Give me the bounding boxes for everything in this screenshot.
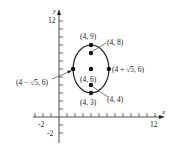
- axes: [33, 9, 165, 143]
- y-tick-label-neg2: -2: [47, 129, 53, 138]
- point-vertex-top: [89, 43, 93, 47]
- label-vertex-bottom: (4, 3): [80, 98, 97, 107]
- y-axis-label: y: [52, 7, 57, 15]
- x-ticks: [35, 113, 155, 117]
- leader-arrow-icon: [67, 71, 72, 74]
- label-vertex-top: (4, 9): [80, 32, 97, 41]
- x-tick-label-neg2: -2: [38, 120, 44, 129]
- leader-lines: [52, 43, 108, 97]
- y-ticks: [59, 21, 63, 133]
- ellipse-diagram: x y -2 12 12 -2 (4, 9) (4, 8) (4, 6) (4,…: [0, 0, 178, 154]
- label-covertex-left: (4 − √5, 6): [16, 78, 49, 87]
- point-focus-top: [89, 51, 93, 55]
- leader-focus-top: [93, 43, 106, 51]
- y-tick-label-12: 12: [48, 16, 56, 25]
- points: [71, 43, 111, 95]
- y-axis-arrow-icon: [57, 9, 61, 15]
- point-center: [89, 67, 93, 71]
- point-vertex-bottom: [89, 91, 93, 95]
- label-focus-top: (4, 8): [107, 38, 124, 47]
- x-tick-label-12: 12: [150, 120, 158, 129]
- point-covertex-right: [107, 67, 111, 71]
- label-covertex-right: (4 + √5, 6): [112, 65, 145, 74]
- x-axis-label: x: [161, 108, 166, 116]
- label-focus-bottom: (4, 4): [107, 95, 124, 104]
- label-center: (4, 6): [80, 75, 97, 84]
